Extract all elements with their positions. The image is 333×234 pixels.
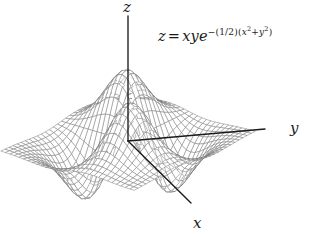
equation-equals: = bbox=[166, 28, 182, 44]
equation-label: z=xye−(1/2)(x2+y2) bbox=[158, 28, 272, 44]
equation-base: xye bbox=[182, 28, 208, 44]
exponent-plus: + bbox=[251, 27, 259, 37]
axis-label-y: y bbox=[289, 119, 299, 137]
exponent-group-close: ) bbox=[269, 27, 273, 37]
exponent-coefficient: (1/2) bbox=[216, 27, 238, 37]
axis-label-x: x bbox=[193, 214, 202, 232]
exponent-sign: − bbox=[208, 27, 216, 37]
equation-exponent: −(1/2)(x2+y2) bbox=[208, 27, 273, 37]
axis-label-z: z bbox=[122, 0, 131, 16]
equation-lhs: z bbox=[158, 28, 166, 44]
